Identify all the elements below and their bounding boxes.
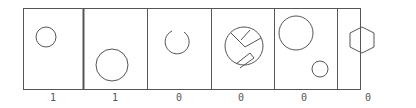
panel-6-label: 0 [353, 92, 383, 103]
outer-frame [24, 9, 361, 90]
panel-5-small-circle-icon [312, 61, 328, 77]
panel-3-label: 0 [164, 92, 194, 103]
panel-5-label: 0 [289, 92, 319, 103]
panel-4-label: 0 [226, 92, 256, 103]
panel-2-label: 1 [100, 92, 130, 103]
panel-4-circle-lines-icon [225, 27, 263, 68]
panel-3-open-circle-icon [165, 31, 189, 54]
panel-6-hexagon-icon [350, 27, 374, 53]
panel-1-label: 1 [38, 92, 68, 103]
panel-1-circle-icon [36, 27, 56, 47]
panel-2-circle-icon [96, 49, 128, 81]
panel-5-large-circle-icon [279, 16, 313, 50]
